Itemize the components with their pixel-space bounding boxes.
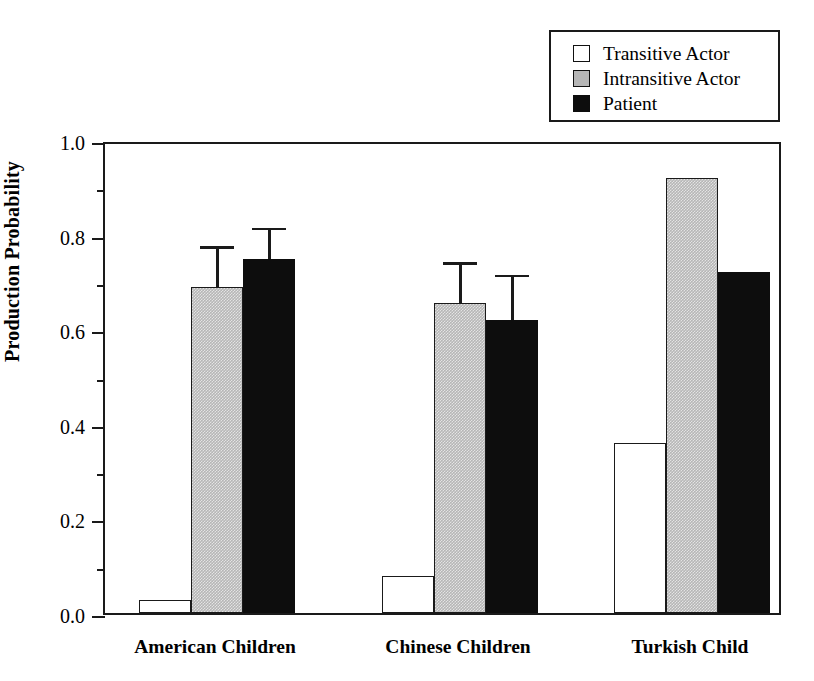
error-bar-cap [495, 275, 529, 278]
x-axis-label-1: American Children [95, 636, 335, 658]
chart-legend: Transitive Actor Intransitive Actor Pati… [549, 30, 780, 122]
bar-chart-figure: Transitive Actor Intransitive Actor Pati… [0, 0, 814, 681]
legend-label-patient: Patient [603, 94, 657, 113]
legend-label-intransitive-actor: Intransitive Actor [603, 69, 740, 88]
legend-item-patient: Patient [573, 91, 778, 116]
y-tick-mark [97, 285, 105, 287]
y-tick-label: 0.2 [60, 509, 85, 533]
error-bar-intransitive-actor-1 [191, 246, 243, 286]
y-tick-mark [92, 143, 105, 145]
bar-intransitive-actor-3 [666, 178, 718, 613]
y-tick-mark [97, 190, 105, 192]
error-bar-patient-1 [243, 228, 295, 260]
bar-transitive-actor-1 [139, 600, 191, 613]
legend-item-intransitive-actor: Intransitive Actor [573, 66, 778, 91]
y-axis-title: Production Probability [1, 2, 24, 522]
y-tick-mark [92, 521, 105, 523]
bar-transitive-actor-3 [614, 443, 666, 613]
bar-intransitive-actor-2 [434, 303, 486, 613]
error-bar-cap [200, 246, 234, 249]
plot-area: 0.00.20.40.60.81.0 [103, 142, 781, 615]
y-tick-label: 0.8 [60, 226, 85, 250]
legend-label-transitive-actor: Transitive Actor [603, 44, 730, 63]
legend-swatch-gray-icon [573, 70, 590, 87]
y-tick-mark [97, 380, 105, 382]
y-tick-mark [97, 569, 105, 571]
y-tick-mark [92, 332, 105, 334]
y-tick-mark [92, 427, 105, 429]
y-tick-label: 0.0 [60, 604, 85, 628]
legend-swatch-white-icon [573, 45, 590, 62]
error-bar-stem [268, 228, 271, 260]
error-bar-cap [443, 262, 477, 265]
plot-inner: 0.00.20.40.60.81.0 [105, 144, 779, 613]
x-axis-label-2: Chinese Children [338, 636, 578, 658]
bar-intransitive-actor-1 [191, 287, 243, 613]
error-bar-stem [459, 262, 462, 303]
y-tick-mark [92, 616, 105, 618]
y-tick-mark [97, 474, 105, 476]
legend-item-transitive-actor: Transitive Actor [573, 41, 778, 66]
bar-transitive-actor-2 [382, 576, 434, 613]
y-tick-mark [92, 238, 105, 240]
error-bar-patient-2 [486, 275, 538, 320]
error-bar-stem [216, 246, 219, 286]
bar-patient-3 [718, 272, 770, 613]
legend-swatch-black-icon [573, 95, 590, 112]
error-bar-intransitive-actor-2 [434, 262, 486, 303]
y-tick-label: 1.0 [60, 131, 85, 155]
bar-patient-2 [486, 320, 538, 613]
error-bar-stem [511, 275, 514, 320]
y-tick-label: 0.6 [60, 320, 85, 344]
y-tick-label: 0.4 [60, 415, 85, 439]
bar-patient-1 [243, 259, 295, 613]
x-axis-label-3: Turkish Child [570, 636, 810, 658]
error-bar-cap [252, 228, 286, 231]
